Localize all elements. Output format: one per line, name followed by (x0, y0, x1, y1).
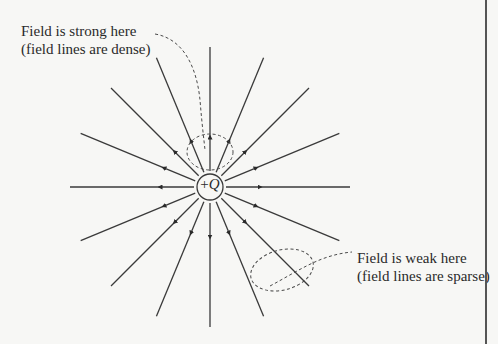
field-line (81, 193, 196, 240)
field-line (225, 193, 340, 240)
charge-label: +Q (197, 176, 223, 193)
arrow-icon (175, 152, 176, 153)
field-line (156, 202, 203, 317)
weak-field-label: Field is weak here (field lines are spar… (357, 249, 490, 285)
arrow-icon (254, 205, 256, 206)
weak-field-label-line2: (field lines are sparse) (357, 267, 490, 285)
field-line (225, 133, 340, 180)
charge-symbol: Q (209, 176, 220, 192)
field-line (111, 198, 199, 286)
field-line (216, 202, 263, 317)
weak-field-label-line1: Field is weak here (357, 249, 490, 267)
strong-field-label-line2: (field lines are dense) (21, 40, 151, 58)
page-edge-line (485, 0, 487, 344)
field-line (221, 198, 309, 286)
field-line (81, 133, 196, 180)
arrow-icon (244, 152, 245, 153)
arrow-icon (164, 205, 166, 206)
arrow-icon (164, 168, 166, 169)
sparse-region-outline (246, 242, 318, 297)
field-line (216, 58, 263, 173)
strong-field-label: Field is strong here (field lines are de… (21, 22, 151, 58)
charge-sign: + (200, 176, 208, 192)
arrow-icon (254, 168, 256, 169)
field-line (156, 58, 203, 173)
dense-callout-dashed-line (155, 34, 205, 150)
arrow-icon (191, 231, 192, 233)
arrow-icon (244, 221, 245, 222)
strong-field-label-line1: Field is strong here (21, 22, 151, 40)
field-line (111, 88, 199, 176)
arrow-icon (175, 221, 176, 222)
arrow-icon (228, 231, 229, 233)
field-line (221, 88, 309, 176)
arrow-icon (191, 141, 192, 143)
